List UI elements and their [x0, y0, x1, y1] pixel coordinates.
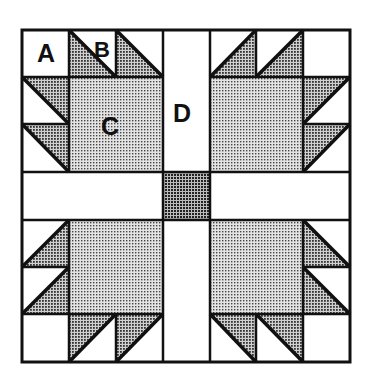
square-c [210, 77, 303, 172]
bears-paw-quilt-block-diagram: A B C D [0, 0, 366, 377]
center-square [163, 172, 210, 220]
label-b: B [94, 37, 110, 62]
label-d: D [173, 99, 191, 127]
label-a: A [37, 39, 55, 67]
square-c [210, 220, 303, 314]
paw-bottom-right [210, 220, 350, 362]
label-c: C [101, 112, 119, 140]
paw-bottom-left [22, 220, 163, 362]
square-c [69, 220, 163, 314]
paw-top-right [210, 30, 350, 172]
